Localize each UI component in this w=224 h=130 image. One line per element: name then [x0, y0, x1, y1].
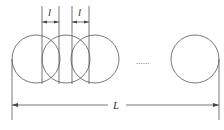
arrowhead-icon — [12, 103, 18, 107]
circle-2 — [42, 35, 90, 83]
arrowhead-icon — [84, 21, 89, 24]
circle-3 — [71, 35, 119, 83]
arrowhead-icon — [42, 21, 47, 24]
circle-last — [171, 35, 219, 83]
circle-1 — [12, 35, 60, 83]
total-length-label: L — [112, 99, 119, 111]
circle-spacing-diagram: l l L ...... — [0, 0, 224, 130]
arrowhead-icon — [72, 21, 77, 24]
spacing-label-2: l — [78, 6, 81, 18]
arrowhead-icon — [213, 103, 219, 107]
spacing-label-1: l — [48, 6, 51, 18]
arrowhead-icon — [54, 21, 59, 24]
ellipsis: ...... — [136, 56, 150, 66]
